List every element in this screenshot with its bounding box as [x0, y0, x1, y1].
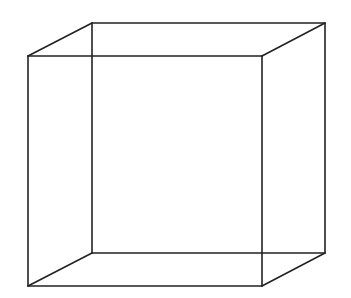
- wireframe-cube: [0, 0, 351, 298]
- cube-edge-front-bottom-left-to-back-bottom-left: [28, 253, 92, 286]
- cube-edge-front-top-left-to-back-top-left: [28, 23, 92, 56]
- cube-edge-front-bottom-right-to-back-bottom-right: [262, 253, 325, 286]
- cube-edge-front-top-right-to-back-top-right: [262, 23, 325, 56]
